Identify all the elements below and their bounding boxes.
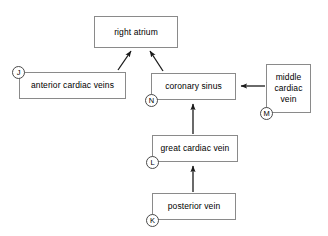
node-label: coronary sinus [162,81,225,92]
node-posterior-vein[interactable]: posterior vein [152,193,236,220]
node-label: great cardiac vein [158,143,233,154]
diagram-canvas: right atrium anterior cardiac veins coro… [0,0,328,236]
edge-sinus-to-atrium [150,51,163,71]
node-label: right atrium [111,27,161,38]
node-label: middle cardiac vein [267,72,310,105]
node-label: posterior vein [165,201,223,212]
node-middle-cardiac-vein[interactable]: middle cardiac vein [266,64,311,113]
marker-l[interactable]: L [146,156,159,169]
node-label: anterior cardiac veins [28,80,117,91]
node-anterior-cardiac-veins[interactable]: anterior cardiac veins [19,72,126,99]
marker-j[interactable]: J [12,66,25,79]
edge-anterior-to-atrium [118,51,131,70]
node-great-cardiac-vein[interactable]: great cardiac vein [152,135,238,162]
marker-k[interactable]: K [146,214,159,227]
marker-m[interactable]: M [260,107,273,120]
node-right-atrium[interactable]: right atrium [94,16,178,48]
node-coronary-sinus[interactable]: coronary sinus [151,73,236,100]
marker-n[interactable]: N [145,94,158,107]
